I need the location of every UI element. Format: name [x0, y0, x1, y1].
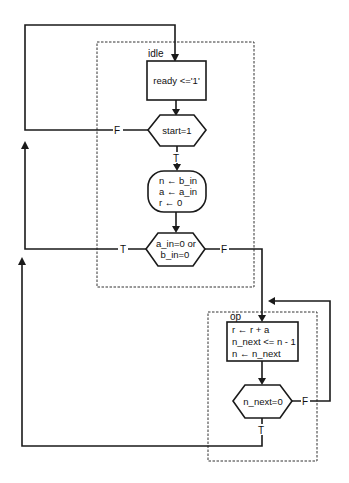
- init-node: n ← b_in a ← a_in r ← 0: [148, 171, 206, 212]
- edge-label-zero-false: F: [221, 244, 227, 255]
- op-node: r ← r + a n_next <= n - 1 n ← n_next: [227, 322, 298, 361]
- init-line-1: n ← b_in: [159, 175, 197, 186]
- op-line-3: n ← n_next: [232, 348, 281, 359]
- start-check-node: start=1: [148, 115, 206, 146]
- n-check-text: n_next=0: [243, 396, 282, 407]
- op-line-1: r ← r + a: [232, 324, 270, 335]
- edge-label-start-false: F: [114, 125, 120, 136]
- zero-check-node: a_in=0 or b_in=0: [146, 233, 205, 266]
- zero-check-line-2: b_in=0: [161, 249, 190, 260]
- init-line-3: r ← 0: [159, 197, 182, 208]
- start-check-text: start=1: [162, 125, 191, 136]
- ready-text: ready <='1': [153, 75, 200, 86]
- arrow-head-icon: [21, 141, 29, 149]
- arrow-head-icon: [172, 226, 180, 233]
- arrow-head-icon: [258, 378, 266, 385]
- arrow-head-icon: [268, 297, 275, 305]
- asm-flowchart: idle op F ready <='1' start=1 T n ← b_in…: [0, 0, 349, 483]
- edge-label-n-false: F: [302, 396, 308, 407]
- edge-label-zero-true: T: [120, 244, 126, 255]
- arrow-head-icon: [18, 257, 26, 265]
- arrow-head-icon: [258, 315, 266, 322]
- op-line-2: n_next <= n - 1: [232, 336, 296, 347]
- edge-zero-true-loop: T: [21, 141, 146, 255]
- edge-label-start-true: T: [173, 153, 179, 164]
- edge-start-true: T: [172, 146, 182, 171]
- op-region-label: op: [230, 311, 242, 322]
- edge-label-n-true: T: [258, 425, 264, 436]
- n-check-node: n_next=0: [233, 385, 292, 418]
- ready-node: ready <='1': [147, 61, 206, 100]
- init-line-2: a ← a_in: [159, 186, 197, 197]
- idle-region-label: idle: [148, 48, 164, 59]
- arrow-head-icon: [173, 164, 181, 171]
- zero-check-line-1: a_in=0 or: [156, 238, 196, 249]
